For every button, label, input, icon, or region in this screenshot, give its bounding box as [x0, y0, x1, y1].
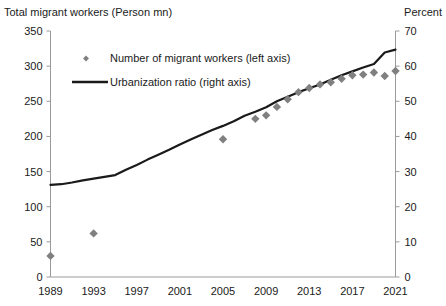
legend-scatter-label: Number of migrant workers (left axis) [110, 52, 290, 64]
y-left-tick-label: 100 [24, 201, 42, 213]
x-tick-label: 2017 [340, 285, 364, 297]
y-right-tick-label: 40 [405, 130, 417, 142]
scatter-point [46, 252, 54, 260]
legend-line-label: Urbanization ratio (right axis) [110, 76, 251, 88]
y-left-tick-label: 250 [24, 95, 42, 107]
legend-scatter-marker [83, 56, 89, 62]
y-axis-left-ticks: 050100150200250300350 [24, 25, 50, 283]
scatter-point [251, 115, 259, 123]
y-left-tick-label: 150 [24, 166, 42, 178]
urbanization-ratio-line [51, 50, 396, 185]
x-tick-label: 2001 [168, 285, 192, 297]
y-right-tick-label: 20 [405, 201, 417, 213]
x-axis-ticks: 198919931997200120052009201320172021 [38, 285, 407, 297]
scatter-point [262, 111, 270, 119]
y-left-tick-label: 350 [24, 25, 42, 37]
x-tick-label: 2013 [297, 285, 321, 297]
y-right-tick-label: 50 [405, 95, 417, 107]
axis-lines [51, 31, 396, 277]
scatter-point [89, 229, 97, 237]
y-left-tick-label: 50 [30, 236, 42, 248]
y-left-tick-label: 200 [24, 130, 42, 142]
x-tick-label: 2005 [211, 285, 235, 297]
plot-area: 050100150200250300350 010203040506070 19… [0, 0, 446, 306]
x-tick-label: 1989 [38, 285, 62, 297]
x-tick-label: 1993 [81, 285, 105, 297]
scatter-point [294, 88, 302, 96]
scatter-point [391, 67, 399, 75]
x-tick-label: 2009 [254, 285, 278, 297]
y-right-tick-label: 0 [405, 271, 411, 283]
scatter-point [359, 70, 367, 78]
y-right-tick-label: 30 [405, 166, 417, 178]
x-tick-label: 2021 [383, 285, 407, 297]
y-left-tick-label: 0 [36, 271, 42, 283]
scatter-point [305, 84, 313, 92]
scatter-point [219, 135, 227, 143]
chart-container: Total migrant workers (Person mn) Percen… [0, 0, 446, 306]
y-axis-right-ticks: 010203040506070 [396, 25, 417, 283]
y-left-tick-label: 300 [24, 60, 42, 72]
scatter-point [370, 68, 378, 76]
y-right-tick-label: 10 [405, 236, 417, 248]
legend: Number of migrant workers (left axis)Urb… [72, 52, 290, 88]
migrant-workers-scatter [46, 67, 399, 260]
y-right-tick-label: 70 [405, 25, 417, 37]
scatter-point [316, 80, 324, 88]
y-right-tick-label: 60 [405, 60, 417, 72]
scatter-point [381, 72, 389, 80]
x-tick-label: 1997 [125, 285, 149, 297]
